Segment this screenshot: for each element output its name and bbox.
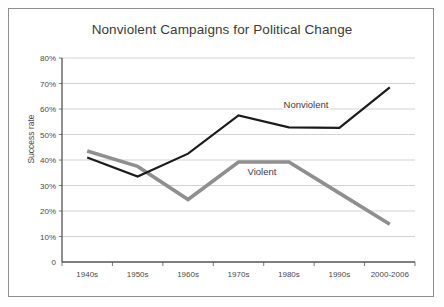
data-series-group — [87, 87, 390, 224]
x-tick-label: 2000-2006 — [371, 270, 410, 279]
y-tick-label: 70% — [40, 80, 56, 89]
x-tick-label: 1970s — [228, 270, 250, 279]
y-tick-label: 20% — [40, 207, 56, 216]
chart-page: Nonviolent Campaigns for Political Chang… — [0, 0, 444, 307]
gridlines-group — [62, 58, 415, 237]
x-axis-ticks-group: 1940s1950s1960s1970s1980s1990s2000-2006 — [62, 262, 415, 279]
x-tick-label: 1980s — [278, 270, 300, 279]
y-tick-label: 10% — [40, 233, 56, 242]
series-label-violent: Violent — [248, 166, 277, 177]
line-chart-svg: 010%20%30%40%50%60%70%80% 1940s1950s1960… — [0, 0, 444, 307]
x-tick-label: 1950s — [127, 270, 149, 279]
y-axis-ticks-group: 010%20%30%40%50%60%70%80% — [40, 54, 62, 267]
y-tick-label: 60% — [40, 105, 56, 114]
x-tick-label: 1940s — [76, 270, 98, 279]
y-tick-label: 30% — [40, 182, 56, 191]
y-tick-label: 50% — [40, 131, 56, 140]
x-tick-label: 1960s — [177, 270, 199, 279]
y-tick-label: 0 — [52, 258, 57, 267]
series-line-violent — [87, 151, 390, 224]
series-annotations-group: NonviolentViolent — [248, 99, 329, 177]
plot-area-wrapper: Success rate 010%20%30%40%50%60%70%80% 1… — [0, 0, 444, 307]
y-tick-label: 40% — [40, 156, 56, 165]
x-tick-label: 1990s — [328, 270, 350, 279]
series-label-nonviolent: Nonviolent — [284, 99, 329, 110]
y-tick-label: 80% — [40, 54, 56, 63]
